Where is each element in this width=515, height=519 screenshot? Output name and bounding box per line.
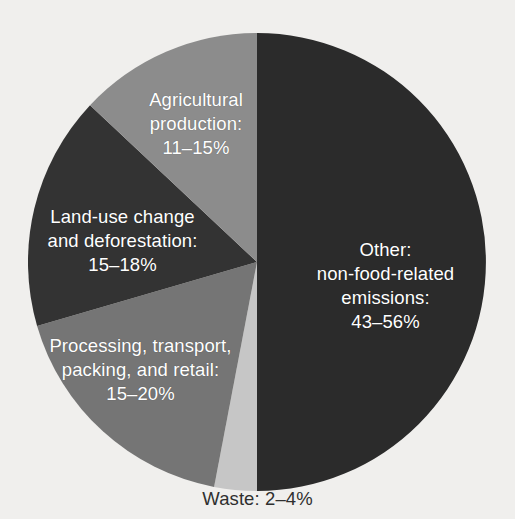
pie-chart-canvas (0, 0, 515, 519)
pie-slice-group (28, 33, 486, 491)
pie-chart: Agricultural production: 11–15% Land-use… (0, 0, 515, 519)
slice-label-waste: Waste: 2–4% (0, 487, 515, 511)
pie-slice-other[interactable] (257, 33, 486, 491)
